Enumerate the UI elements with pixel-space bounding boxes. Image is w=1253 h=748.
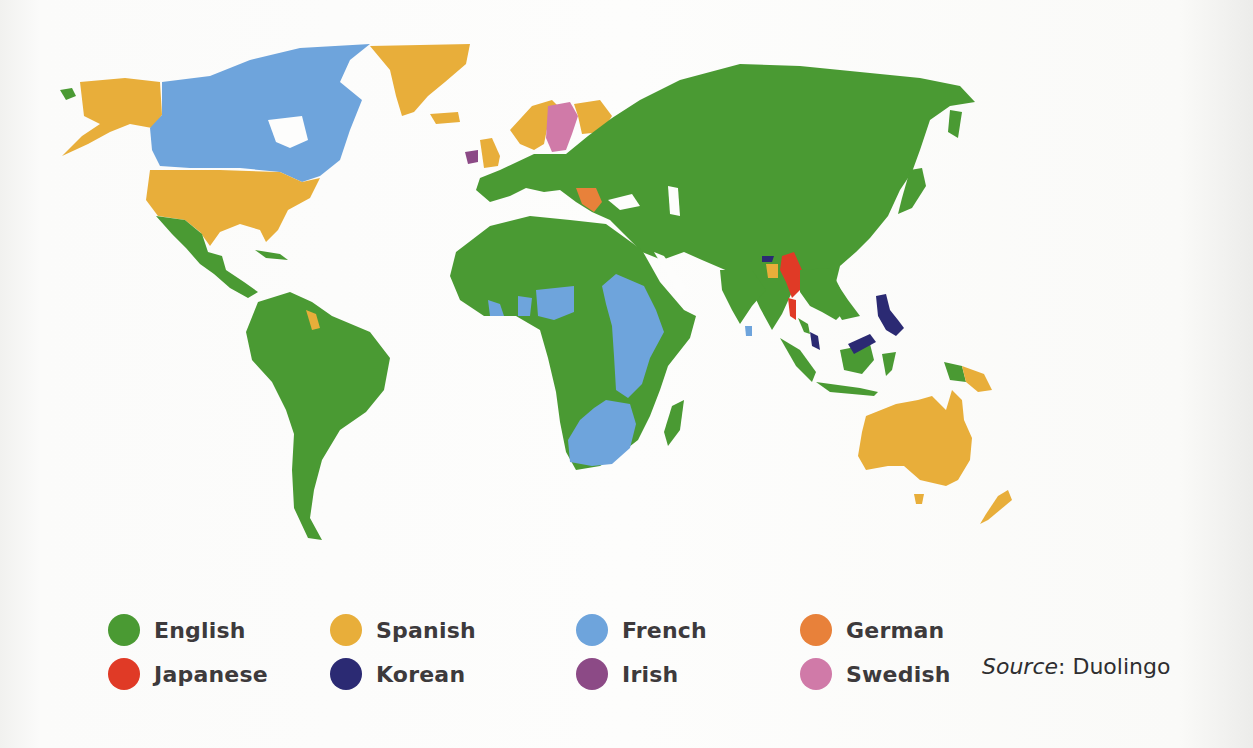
source-name: Duolingo bbox=[1072, 654, 1170, 679]
region-malay-peninsula bbox=[798, 318, 810, 334]
region-iceland bbox=[430, 112, 460, 124]
region-south-america bbox=[246, 292, 390, 540]
japanese-dot-icon bbox=[108, 658, 140, 690]
region-java bbox=[816, 382, 878, 396]
region-bangladesh bbox=[766, 264, 778, 278]
legend-item-japanese: Japanese bbox=[108, 656, 268, 692]
legend-label: German bbox=[846, 618, 944, 643]
legend-label: Irish bbox=[622, 662, 678, 687]
german-dot-icon bbox=[800, 614, 832, 646]
legend-label: Japanese bbox=[154, 662, 268, 687]
region-uk bbox=[480, 138, 500, 168]
region-sulawesi bbox=[882, 352, 896, 376]
legend-item-swedish: Swedish bbox=[800, 656, 951, 692]
region-new-guinea-west bbox=[944, 362, 966, 382]
legend-item-english: English bbox=[108, 612, 246, 648]
region-caribbean bbox=[255, 250, 288, 260]
region-papua-new-guinea bbox=[962, 366, 992, 392]
legend-label: Spanish bbox=[376, 618, 476, 643]
spanish-dot-icon bbox=[330, 614, 362, 646]
region-philippines bbox=[876, 294, 904, 336]
region-new-zealand bbox=[980, 490, 1012, 524]
region-siberia-tip bbox=[60, 88, 76, 100]
region-sri-lanka bbox=[745, 326, 752, 336]
english-dot-icon bbox=[108, 614, 140, 646]
korean-dot-icon bbox=[330, 658, 362, 690]
world-map bbox=[40, 20, 1040, 560]
legend-item-irish: Irish bbox=[576, 656, 678, 692]
region-sweden bbox=[546, 102, 578, 152]
legend-label: English bbox=[154, 618, 246, 643]
region-malaysia-peninsula bbox=[810, 332, 820, 350]
region-ireland bbox=[465, 150, 478, 164]
source-prefix: Source bbox=[982, 654, 1058, 679]
page: English Spanish French German Japanese K… bbox=[0, 0, 1253, 748]
swedish-dot-icon bbox=[800, 658, 832, 690]
legend-label: Korean bbox=[376, 662, 465, 687]
region-indochina bbox=[800, 268, 846, 320]
legend-item-french: French bbox=[576, 612, 707, 648]
legend-item-spanish: Spanish bbox=[330, 612, 476, 648]
source-credit: Source: Duolingo bbox=[982, 654, 1170, 679]
region-australia bbox=[858, 390, 972, 486]
irish-dot-icon bbox=[576, 658, 608, 690]
legend-label: Swedish bbox=[846, 662, 951, 687]
french-dot-icon bbox=[576, 614, 608, 646]
source-separator: : bbox=[1058, 654, 1072, 679]
region-bhutan bbox=[762, 256, 774, 262]
region-greenland bbox=[370, 44, 470, 116]
legend-label: French bbox=[622, 618, 707, 643]
region-canada bbox=[150, 44, 370, 182]
region-usa bbox=[146, 170, 320, 246]
region-alaska bbox=[62, 78, 162, 156]
legend-item-korean: Korean bbox=[330, 656, 465, 692]
region-sumatra bbox=[780, 338, 816, 382]
region-tasmania bbox=[914, 494, 924, 504]
region-madagascar bbox=[664, 400, 684, 446]
legend-item-german: German bbox=[800, 612, 944, 648]
region-kamchatka bbox=[948, 110, 962, 138]
